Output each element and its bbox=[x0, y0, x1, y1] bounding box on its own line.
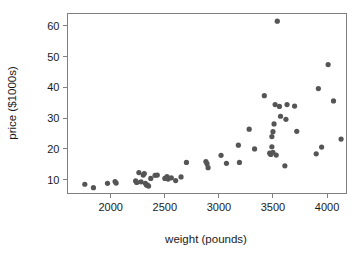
data-point bbox=[270, 129, 275, 134]
data-point bbox=[148, 176, 153, 181]
data-point bbox=[82, 182, 87, 187]
y-tick-label: 40 bbox=[47, 81, 59, 93]
data-point bbox=[247, 127, 252, 132]
x-tick-label: 3000 bbox=[207, 201, 231, 213]
data-point bbox=[277, 104, 282, 109]
data-point bbox=[169, 175, 174, 180]
data-point bbox=[319, 144, 324, 149]
data-point bbox=[91, 185, 96, 190]
data-point bbox=[274, 152, 279, 157]
data-point bbox=[178, 174, 183, 179]
y-tick-label: 20 bbox=[47, 143, 59, 155]
data-point bbox=[262, 93, 267, 98]
data-point bbox=[105, 181, 110, 186]
x-tick-label: 4000 bbox=[315, 201, 339, 213]
data-point bbox=[269, 144, 274, 149]
data-point bbox=[142, 171, 147, 176]
x-axis-title: weight (pounds) bbox=[164, 233, 247, 245]
scatter-chart-figure: 20002500300035004000 102030405060 weight… bbox=[0, 0, 362, 256]
data-point bbox=[338, 136, 343, 141]
data-point bbox=[269, 134, 274, 139]
data-point bbox=[284, 102, 289, 107]
data-point bbox=[271, 121, 276, 126]
x-tick-label: 3500 bbox=[261, 201, 285, 213]
data-point bbox=[173, 178, 178, 183]
data-point bbox=[316, 86, 321, 91]
y-tick-label: 60 bbox=[47, 20, 59, 32]
data-point bbox=[224, 161, 229, 166]
y-tick-label: 30 bbox=[47, 112, 59, 124]
data-point bbox=[283, 117, 288, 122]
data-point bbox=[155, 172, 160, 177]
data-point bbox=[282, 163, 287, 168]
data-point bbox=[184, 160, 189, 165]
x-tick-label: 2500 bbox=[153, 201, 177, 213]
data-point bbox=[331, 98, 336, 103]
data-point bbox=[237, 160, 242, 165]
chart-background bbox=[0, 0, 362, 256]
y-tick-label: 50 bbox=[47, 51, 59, 63]
data-point bbox=[236, 143, 241, 148]
data-point bbox=[278, 114, 283, 119]
data-point bbox=[218, 153, 223, 158]
y-axis-title: price ($1000s) bbox=[6, 66, 18, 140]
y-tick-label: 10 bbox=[47, 174, 59, 186]
data-point bbox=[146, 184, 151, 189]
x-tick-label: 2000 bbox=[99, 201, 123, 213]
data-point bbox=[114, 180, 119, 185]
data-point bbox=[292, 104, 297, 109]
data-point bbox=[326, 62, 331, 67]
data-point bbox=[252, 146, 257, 151]
data-point bbox=[205, 165, 210, 170]
chart-canvas: 20002500300035004000 102030405060 weight… bbox=[0, 0, 362, 256]
data-point bbox=[314, 151, 319, 156]
data-point bbox=[275, 19, 280, 24]
data-point bbox=[294, 129, 299, 134]
